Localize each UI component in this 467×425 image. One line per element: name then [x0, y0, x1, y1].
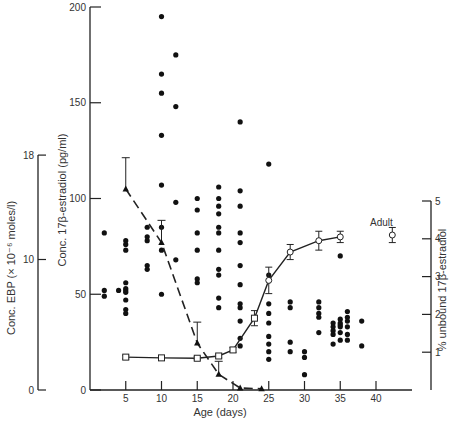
estradiol-point: [195, 230, 200, 235]
estradiol-point: [216, 230, 221, 235]
estradiol-point: [316, 299, 321, 304]
left-secondary-axis-label: Conc. EBP (× 10⁻⁶ moles/l): [5, 201, 17, 335]
estradiol-point: [316, 330, 321, 335]
estradiol-point: [195, 207, 200, 212]
axis-labels: Age (days) Conc. 17β-estradiol (pg/ml) C…: [5, 134, 448, 418]
estradiol-point: [102, 288, 107, 293]
estradiol-point: [266, 301, 271, 306]
estradiol-point: [216, 211, 221, 216]
unbound-circle-marker: [287, 249, 293, 255]
unbound-circle-marker: [266, 277, 272, 283]
x-tick-label: 35: [335, 393, 347, 404]
estradiol-point: [238, 263, 243, 268]
left-primary-tick-label: 100: [69, 193, 86, 204]
estradiol-point: [288, 299, 293, 304]
left-primary-axis-label: Conc. 17β-estradiol (pg/ml): [56, 134, 68, 267]
left-primary-tick-label: 50: [75, 289, 87, 300]
estradiol-point: [288, 349, 293, 354]
estradiol-point: [159, 182, 164, 187]
estradiol-point: [266, 357, 271, 362]
estradiol-point: [266, 311, 271, 316]
estradiol-point: [195, 280, 200, 285]
estradiol-point: [266, 320, 271, 325]
estradiol-point: [216, 204, 221, 209]
x-tick-label: 40: [370, 393, 382, 404]
estradiol-point: [173, 257, 178, 262]
estradiol-point: [216, 273, 221, 278]
estradiol-point: [238, 305, 243, 310]
unbound-circle-marker: [337, 234, 343, 240]
estradiol-point: [216, 248, 221, 253]
estradiol-point: [238, 230, 243, 235]
estradiol-point: [266, 334, 271, 339]
estradiol-point: [216, 267, 221, 272]
estradiol-point: [159, 91, 164, 96]
estradiol-point: [123, 297, 128, 302]
estradiol-point: [173, 52, 178, 57]
unbound-circle-marker: [316, 238, 322, 244]
estradiol-point: [238, 318, 243, 323]
x-tick-label: 20: [227, 393, 239, 404]
estradiol-point: [216, 225, 221, 230]
estradiol-point: [159, 133, 164, 138]
estradiol-point: [266, 349, 271, 354]
estradiol-point: [173, 200, 178, 205]
estradiol-point: [102, 230, 107, 235]
estradiol-point: [288, 340, 293, 345]
estradiol-point: [159, 292, 164, 297]
left-secondary-tick-label: 10: [23, 254, 35, 265]
estradiol-point: [216, 295, 221, 300]
right-axis-label: % unbound 17β-estradiol: [436, 229, 448, 352]
estradiol-point: [345, 309, 350, 314]
estradiol-point: [123, 290, 128, 295]
estradiol-point: [316, 315, 321, 320]
estradiol-point: [238, 188, 243, 193]
estradiol-point: [216, 196, 221, 201]
estradiol-point: [123, 242, 128, 247]
estradiol-point: [338, 324, 343, 329]
left-primary-tick-label: 150: [69, 97, 86, 108]
unbound-square-marker: [123, 354, 129, 360]
left-primary-tick-label: 0: [80, 385, 86, 396]
estradiol-point: [195, 248, 200, 253]
estradiol-point: [116, 288, 121, 293]
estradiol-point: [345, 332, 350, 337]
estradiol-point: [302, 349, 307, 354]
estradiol-point: [338, 253, 343, 258]
estradiol-point: [123, 280, 128, 285]
estradiol-point: [123, 248, 128, 253]
estradiol-point: [238, 240, 243, 245]
unbound-square-marker: [230, 347, 236, 353]
left-secondary-tick-label: 0: [28, 385, 34, 396]
estradiol-point: [159, 14, 164, 19]
x-tick-label: 25: [263, 393, 275, 404]
estradiol-point: [102, 294, 107, 299]
estradiol-point: [345, 324, 350, 329]
chart: 5101520253035400501001502000101812345 Ag…: [0, 0, 467, 425]
estradiol-point: [266, 341, 271, 346]
estradiol-point: [195, 196, 200, 201]
axes: 5101520253035400501001502000101812345: [23, 2, 441, 405]
estradiol-point: [216, 184, 221, 189]
estradiol-point: [145, 225, 150, 230]
x-tick-label: 30: [299, 393, 311, 404]
left-primary-tick-label: 200: [69, 2, 86, 13]
ebp-triangle-marker: [194, 340, 200, 346]
estradiol-point: [338, 330, 343, 335]
estradiol-point: [266, 161, 271, 166]
estradiol-point: [359, 318, 364, 323]
estradiol-point: [345, 338, 350, 343]
estradiol-point: [238, 119, 243, 124]
estradiol-point: [331, 341, 336, 346]
estradiol-point: [302, 355, 307, 360]
x-tick-label: 5: [123, 393, 129, 404]
ebp-triangle-marker: [123, 186, 129, 192]
unbound-line: [126, 237, 341, 358]
estradiol-point: [159, 71, 164, 76]
ebp-triangle-marker: [216, 371, 222, 377]
unbound-square-marker: [194, 355, 200, 361]
estradiol-point: [123, 311, 128, 316]
estradiol-point: [345, 318, 350, 323]
estradiol-point: [145, 238, 150, 243]
unbound-square-marker: [216, 353, 222, 359]
